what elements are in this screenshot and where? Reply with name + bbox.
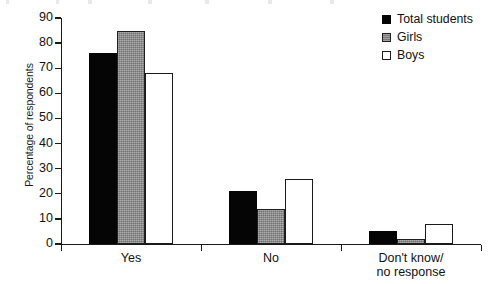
legend-item[interactable]: Boys bbox=[382, 47, 473, 63]
bar bbox=[257, 209, 285, 244]
cropped-title-artifact bbox=[0, 0, 489, 4]
y-axis-tick-label: 80 bbox=[13, 36, 53, 49]
y-axis-tick-label: 0 bbox=[13, 237, 53, 250]
bar bbox=[285, 179, 313, 244]
y-axis-tick-label: 10 bbox=[13, 212, 53, 225]
y-axis-tick-label: 90 bbox=[13, 11, 53, 24]
x-axis-tick-mark bbox=[61, 245, 62, 251]
x-axis-category-label: No bbox=[201, 252, 341, 266]
x-axis-tick-mark bbox=[201, 245, 202, 251]
legend-swatch-icon bbox=[382, 51, 391, 60]
legend-swatch-icon bbox=[382, 15, 391, 24]
y-axis-tick-label: 60 bbox=[13, 86, 53, 99]
y-axis-tick-label: 40 bbox=[13, 137, 53, 150]
legend-swatch-icon bbox=[382, 33, 391, 42]
bar bbox=[145, 73, 173, 244]
x-axis-line bbox=[61, 244, 481, 245]
x-axis-category-label: Yes bbox=[61, 252, 201, 266]
y-axis-tick-label: 50 bbox=[13, 111, 53, 124]
legend-item[interactable]: Total students bbox=[382, 11, 473, 27]
x-axis-tick-mark bbox=[481, 245, 482, 251]
bar bbox=[89, 53, 117, 244]
legend-item-label: Total students bbox=[397, 13, 473, 26]
bar bbox=[117, 31, 145, 244]
bar bbox=[229, 191, 257, 244]
bar bbox=[369, 231, 397, 244]
y-axis-tick-label: 30 bbox=[13, 162, 53, 175]
y-axis-tick-label: 20 bbox=[13, 187, 53, 200]
y-axis-tick-label: 70 bbox=[13, 61, 53, 74]
legend-item[interactable]: Girls bbox=[382, 29, 473, 45]
bar bbox=[425, 224, 453, 244]
legend-item-label: Boys bbox=[397, 49, 424, 62]
chart-legend: Total studentsGirlsBoys bbox=[382, 11, 473, 65]
x-axis-tick-mark bbox=[341, 245, 342, 251]
legend-item-label: Girls bbox=[397, 31, 422, 44]
x-axis-category-label: Don't know/ no response bbox=[341, 252, 481, 279]
bar-chart: Percentage of respondents 01020304050607… bbox=[0, 0, 489, 284]
